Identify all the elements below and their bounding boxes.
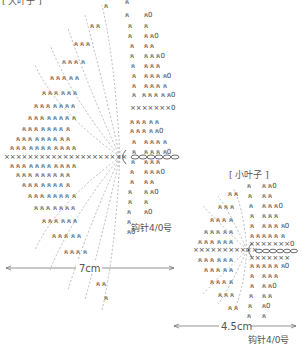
svg-text:ጸ ጸ ጸ ጸ ጸ: ጸ ጸ ጸ ጸ ጸ (130, 118, 159, 126)
svg-text:ጸ ጸ ጸ: ጸ ጸ ጸ (262, 272, 278, 280)
svg-text:ጸ ጸ ጸ ጸ0: ጸ ጸ ጸ ጸ0 (262, 262, 289, 270)
svg-text:ጸ ጸ ጸ0: ጸ ጸ ጸ0 (144, 52, 165, 60)
svg-text:ጸ ጸ ጸ ጸ ጸ ጸ ጸ ጸ: ጸ ጸ ጸ ጸ ጸ ጸ ጸ ጸ (22, 125, 70, 133)
svg-text:ጸ: ጸ (250, 212, 254, 220)
svg-text:ጸ ጸ ጸ ጸ ጸ ጸ ጸ ጸ ጸ ጸ ጸ: ጸ ጸ ጸ ጸ ጸ ጸ ጸ ጸ ጸ ጸ ጸ (10, 162, 76, 170)
svg-text:ጸ ጸ ጸ ጸ: ጸ ጸ ጸ ጸ (144, 138, 167, 146)
small-leaf-hook-label: 钩针4/0号 (248, 334, 289, 345)
svg-text:ጸ ጸ ጸ ጸ ጸ: ጸ ጸ ጸ ጸ ጸ (52, 232, 81, 240)
svg-text:ጸ ጸ ጸ ጸ0: ጸ ጸ ጸ ጸ0 (144, 72, 171, 80)
svg-text:ጸ: ጸ (131, 62, 135, 70)
svg-text:ጸ ጸ ጸ ጸ ጸ: ጸ ጸ ጸ ጸ ጸ (204, 266, 233, 274)
svg-text:ጸ0: ጸ0 (262, 302, 270, 310)
svg-text:ጸ ጸ ጸ ጸ ጸ: ጸ ጸ ጸ ጸ ጸ (50, 74, 79, 82)
svg-text:ጸ ጸ ጸ ጸ ጸ ጸ ጸ: ጸ ጸ ጸ ጸ ጸ ጸ ጸ (34, 102, 75, 110)
big-leaf-dimension: 7cm (6, 261, 174, 274)
svg-text:ጸ ጸ: ጸ ጸ (250, 262, 260, 270)
big-leaf-right-columns: ጸ ጸጸ0 ጸጸ ጸጸ ጸ0 ጸጸ ጸ ጸጸ ጸ ጸ0 ጸጸ ጸ ጸ ጸጸ ጸ … (125, 0, 176, 236)
svg-text:ጸ: ጸ (249, 202, 253, 210)
svg-text:ጸ: ጸ (247, 182, 251, 190)
svg-text:ጸ: ጸ (262, 312, 266, 320)
svg-text:ጸ: ጸ (130, 52, 134, 60)
svg-text:×××××××0: ×××××××0 (130, 104, 176, 112)
svg-text:ጸ ጸ ጸ0: ጸ ጸ ጸ0 (262, 202, 283, 210)
svg-text:ጸ ጸ ጸ ጸ ጸ ጸ ጸ ጸ: ጸ ጸ ጸ ጸ ጸ ጸ ጸ ጸ (28, 192, 76, 200)
svg-text:ጸ: ጸ (247, 312, 251, 320)
small-leaf-title: [ 小叶子 ] (229, 170, 269, 180)
svg-text:ጸ ጸ ጸ: ጸ ጸ ጸ (218, 203, 234, 211)
svg-text:ጸ ጸ: ጸ ጸ (144, 42, 154, 50)
svg-text:ጸ: ጸ (128, 188, 132, 196)
svg-text:ጸ ጸ ጸ ጸ ጸ ጸ: ጸ ጸ ጸ ጸ ጸ ጸ (198, 256, 233, 264)
svg-text:ጸ ጸ ጸ ጸ ጸ ጸ ጸ ጸ: ጸ ጸ ጸ ጸ ጸ ጸ ጸ ጸ (28, 114, 76, 122)
svg-text:ጸ ጸ ጸ ጸ ጸ ጸ ጸ ጸ ጸ ጸ ጸ: ጸ ጸ ጸ ጸ ጸ ጸ ጸ ጸ ጸ ጸ ጸ (10, 144, 76, 152)
svg-text:ጸ ጸ ጸ: ጸ ጸ ጸ (74, 40, 90, 48)
svg-text:ጸ: ጸ (132, 82, 136, 90)
svg-text:ጸ ጸ: ጸ ጸ (262, 192, 272, 200)
svg-text:ጸ ጸ ጸ: ጸ ጸ ጸ (144, 62, 160, 70)
svg-text:ጸ: ጸ (125, 11, 129, 19)
small-leaf-dimension: 4.5cm (174, 319, 296, 332)
svg-text:ጸ ጸ0: ጸ ጸ0 (144, 32, 159, 40)
svg-text:ጸ ጸ ጸ ጸ ጸ ጸ ጸ ጸ: ጸ ጸ ጸ ጸ ጸ ጸ ጸ ጸ (22, 181, 70, 189)
svg-text:×⨯×⨯×⨯×⨯×⨯×⨯×⨯×⨯×⨯×××: ×⨯×⨯×⨯×⨯×⨯×⨯×⨯×⨯×⨯××× (4, 153, 127, 161)
svg-text:ጸ ጸ ጸ ጸ ጸ ጸ: ጸ ጸ ጸ ጸ ጸ ጸ (198, 238, 233, 246)
svg-text:×⨯×⨯×⨯×⨯×⨯×: ×⨯×⨯×⨯×⨯×⨯× (193, 246, 258, 254)
svg-text:ጸ: ጸ (250, 272, 254, 280)
svg-text:ጸ0: ጸ0 (144, 11, 152, 19)
svg-text:ጸ: ጸ (128, 22, 132, 30)
svg-text:ጸ ጸ: ጸ ጸ (250, 232, 260, 240)
svg-text:ጸ ጸ ጸ: ጸ ጸ ጸ (262, 212, 278, 220)
svg-text:ጸ ጸ ጸ ጸ0: ጸ ጸ ጸ ጸ0 (262, 222, 289, 230)
svg-text:ጸ: ጸ (104, 2, 108, 10)
svg-text:ጸ ጸ ጸ ጸ ጸ ጸ: ጸ ጸ ጸ ጸ ጸ ጸ (42, 217, 77, 225)
svg-text:ጸ ጸ ጸ ጸ: ጸ ጸ ጸ ጸ (144, 82, 167, 90)
svg-text:ጸ ጸ ጸ ጸ ጸ: ጸ ጸ ጸ ጸ ጸ (204, 228, 233, 236)
svg-text:ጸ ጸ0: ጸ ጸ0 (144, 188, 159, 196)
svg-text:ጸ: ጸ (130, 178, 134, 186)
svg-text:ጸ: ጸ (249, 292, 253, 300)
svg-text:ጸ0: ጸ0 (144, 208, 152, 216)
svg-text:ጸ ጸ ጸ ጸ ጸ0: ጸ ጸ ጸ ጸ ጸ0 (142, 91, 175, 99)
svg-text:ጸ ጸ ጸ ጸ: ጸ ጸ ጸ ጸ (262, 232, 285, 240)
crochet-chart: [ 大叶子 ] ×⨯×⨯×⨯×⨯×⨯×⨯×⨯×⨯×⨯××× ጸ ጸ ጸ ጸ ጸ … (0, 0, 302, 346)
svg-text:ጸ: ጸ (250, 282, 254, 290)
small-leaf-stitches: ×⨯×⨯×⨯×⨯×⨯× ጸ ጸ ጸ ጸ ጸ ጸ ጸ ጸ ጸ ጸ ጸ ጸ ጸ ጸ … (193, 190, 258, 312)
svg-text:ጸ ጸ ጸ ጸ: ጸ ጸ ጸ ጸ (210, 216, 233, 224)
svg-text:ጸ: ጸ (248, 302, 252, 310)
svg-text:ጸ ጸ: ጸ ጸ (144, 178, 154, 186)
svg-text:ጸ: ጸ (128, 198, 132, 206)
big-leaf-title: [ 大叶子 ] (2, 0, 42, 6)
svg-text:×××××××: ××××××× (249, 254, 290, 262)
svg-text:ጸ ጸ ጸ ጸ: ጸ ጸ ጸ ጸ (210, 278, 233, 286)
svg-text:ጸ ጸ ጸ ጸ ጸ ጸ: ጸ ጸ ጸ ጸ ጸ ጸ (42, 89, 77, 97)
svg-text:ጸ ጸ ጸ ጸ ጸ ጸ ጸ ጸ ጸ: ጸ ጸ ጸ ጸ ጸ ጸ ጸ ጸ ጸ (16, 135, 70, 143)
svg-text:ጸ: ጸ (125, 0, 129, 6)
svg-text:ጸ ጸ ጸ0: ጸ ጸ ጸ0 (144, 168, 165, 176)
svg-text:ጸ: ጸ (130, 42, 134, 50)
small-leaf-width-label: 4.5cm (221, 321, 252, 332)
svg-text:ጸ ጸ: ጸ ጸ (90, 22, 100, 30)
big-leaf-hook-label: 钩针4/0号 (131, 222, 172, 233)
svg-text:ጸ ጸ ጸ ጸ ጸ0: ጸ ጸ ጸ ጸ ጸ0 (130, 127, 163, 135)
svg-text:ጸ: ጸ (132, 72, 136, 80)
svg-text:×××××××0: ×××××××0 (249, 240, 295, 248)
svg-text:ጸ: ጸ (127, 208, 131, 216)
svg-text:ጸ: ጸ (128, 32, 132, 40)
svg-text:ጸ: ጸ (132, 91, 136, 99)
svg-text:ጸ: ጸ (104, 294, 108, 302)
svg-text:ጸ: ጸ (130, 168, 134, 176)
big-leaf-width-label: 7cm (79, 263, 101, 274)
svg-text:ጸ: ጸ (248, 192, 252, 200)
big-leaf-stitches: ×⨯×⨯×⨯×⨯×⨯×⨯×⨯×⨯×⨯××× ጸ ጸ ጸ ጸ ጸ ጸ ጸ ጸ ጸ … (4, 2, 127, 302)
svg-text:ጸ: ጸ (144, 198, 148, 206)
svg-text:ጸ ጸ ጸ ጸ ጸ ጸ ጸ: ጸ ጸ ጸ ጸ ጸ ጸ ጸ (34, 204, 75, 212)
svg-text:ጸ ጸ ጸ ጸ ጸ ጸ ጸ ጸ ጸ: ጸ ጸ ጸ ጸ ጸ ጸ ጸ ጸ ጸ (16, 171, 70, 179)
svg-text:ጸ ጸ: ጸ ጸ (228, 190, 238, 198)
svg-text:ጸ: ጸ (144, 22, 148, 30)
svg-text:ጸ ጸ: ጸ ጸ (228, 304, 238, 312)
svg-text:ጸ ጸ ጸ ጸ: ጸ ጸ ጸ ጸ (62, 58, 85, 66)
svg-text:ጸ ጸ: ጸ ጸ (262, 292, 272, 300)
svg-text:ጸ ጸ ጸ: ጸ ጸ ጸ (218, 291, 234, 299)
svg-text:ጸ: ጸ (250, 222, 254, 230)
